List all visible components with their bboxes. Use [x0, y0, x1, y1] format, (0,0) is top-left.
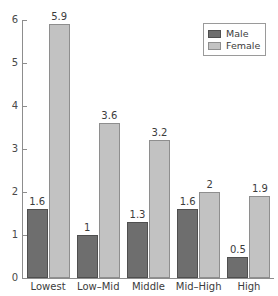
y-axis-tick-label: 3 [0, 144, 18, 154]
bar-female [99, 123, 120, 278]
bar-male [177, 209, 198, 278]
bar-female [249, 196, 270, 278]
bar-male [77, 235, 98, 278]
bar-male [27, 209, 48, 278]
legend-label-female: Female [226, 41, 260, 51]
bar-male [127, 222, 148, 278]
bars-container: 1.65.913.61.33.21.620.51.9 [23, 20, 274, 278]
x-axis-label: High [224, 282, 274, 292]
bar-female [199, 192, 220, 278]
bar-female [149, 140, 170, 278]
x-axis-label: Middle [123, 282, 173, 292]
legend-label-male: Male [226, 29, 249, 39]
x-axis-line [22, 278, 274, 279]
bar-chart: 0123456 1.65.913.61.33.21.620.51.9 Lowes… [0, 0, 278, 296]
bar-value-label: 1.6 [23, 197, 52, 207]
bar-value-label: 0.5 [223, 245, 252, 255]
x-axis-label: Lowest [23, 282, 73, 292]
y-axis-tick-label: 4 [0, 101, 18, 111]
bar-value-label: 5.9 [45, 12, 74, 22]
y-axis-tick-label: 1 [0, 230, 18, 240]
y-axis-tick-label: 2 [0, 187, 18, 197]
y-axis-tick [23, 278, 27, 279]
bar-female [49, 24, 70, 278]
chart-legend: Male Female [203, 23, 266, 56]
x-axis-label: Low–Mid [73, 282, 123, 292]
y-axis-tick-label: 6 [0, 15, 18, 25]
bar-value-label: 1.6 [173, 197, 202, 207]
x-axis-label: Mid–High [174, 282, 224, 292]
bar-value-label: 3.2 [145, 128, 174, 138]
legend-swatch-female-icon [208, 42, 221, 50]
bar-value-label: 1.9 [245, 184, 274, 194]
bar-male [227, 257, 248, 279]
y-axis-tick-label: 0 [0, 273, 18, 283]
bar-value-label: 2 [195, 180, 224, 190]
y-axis-tick-label: 5 [0, 58, 18, 68]
bar-value-label: 1 [73, 223, 102, 233]
legend-swatch-male-icon [208, 30, 221, 38]
bar-value-label: 3.6 [95, 111, 124, 121]
legend-item-female: Female [208, 40, 261, 51]
legend-item-male: Male [208, 28, 261, 39]
bar-value-label: 1.3 [123, 210, 152, 220]
